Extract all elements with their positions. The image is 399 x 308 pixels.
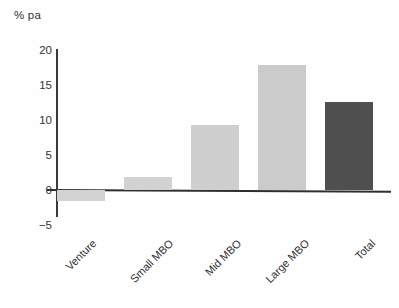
x-label-total: Total: [329, 237, 377, 285]
plot-area: 20 15 10 5 0 −5 Venture Small MBO Mid MB…: [0, 0, 399, 308]
x-label-large-mbo: Large MBO: [254, 237, 312, 295]
x-label-venture: Venture: [48, 237, 99, 288]
x-label-small-mbo: Small MBO: [118, 237, 176, 295]
bar-chart-figure: % pa 20 15 10 5 0 −5 Venture Small MBO M…: [0, 0, 399, 308]
x-axis-category-labels: Venture Small MBO Mid MBO Large MBO Tota…: [0, 0, 399, 308]
x-label-mid-mbo: Mid MBO: [187, 237, 244, 294]
